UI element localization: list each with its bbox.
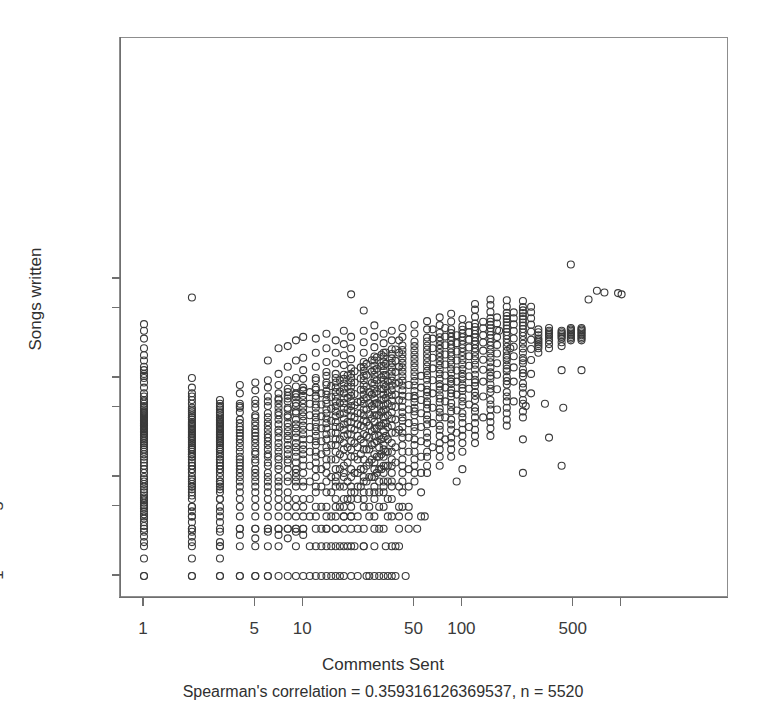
data-point <box>411 321 418 328</box>
data-point <box>236 390 243 397</box>
data-point <box>593 287 600 294</box>
data-point <box>344 478 351 485</box>
data-point <box>487 364 494 371</box>
data-point <box>366 513 373 520</box>
x-axis-title: Comments Sent <box>0 655 766 675</box>
data-point <box>510 335 517 342</box>
data-point <box>292 503 299 510</box>
data-point <box>328 489 335 496</box>
data-point <box>376 489 383 496</box>
data-point <box>405 483 412 490</box>
data-point <box>510 364 517 371</box>
data-point <box>510 353 517 360</box>
y-tick-label: 10 <box>0 468 2 485</box>
data-point <box>503 393 510 400</box>
data-point <box>399 478 406 485</box>
data-point <box>292 448 299 455</box>
data-point <box>519 380 526 387</box>
data-point <box>284 474 291 481</box>
y-axis-title: Songs written <box>20 0 50 597</box>
data-point <box>328 513 335 520</box>
data-point <box>328 543 335 550</box>
data-point <box>376 525 383 532</box>
data-point <box>284 513 291 520</box>
data-point <box>252 525 259 532</box>
data-point <box>510 328 517 335</box>
data-point <box>418 410 425 417</box>
data-point <box>494 371 501 378</box>
data-point <box>264 384 271 391</box>
data-point <box>264 474 271 481</box>
data-point <box>300 451 307 458</box>
data-point <box>348 333 355 340</box>
data-point <box>528 357 535 364</box>
data-point <box>275 503 282 510</box>
data-point <box>332 360 339 367</box>
data-point <box>264 543 271 550</box>
data-point <box>328 429 335 436</box>
data-point <box>459 440 466 447</box>
data-point <box>535 349 542 356</box>
data-point <box>300 354 307 361</box>
data-point <box>528 336 535 343</box>
data-point <box>275 448 282 455</box>
data-point <box>292 573 299 580</box>
x-tick-label: 500 <box>558 620 586 637</box>
data-point <box>284 377 291 384</box>
data-point <box>411 478 418 485</box>
data-point <box>405 525 412 532</box>
data-point <box>480 414 487 421</box>
data-point <box>300 375 307 382</box>
data-point <box>480 393 487 400</box>
data-point <box>264 377 271 384</box>
data-point <box>275 370 282 377</box>
data-point <box>332 337 339 344</box>
data-point <box>284 535 291 542</box>
data-point <box>292 357 299 364</box>
data-point <box>424 318 431 325</box>
data-point <box>472 313 479 320</box>
data-points-layer <box>120 38 727 596</box>
data-point <box>188 503 195 510</box>
data-point <box>494 334 501 341</box>
data-point <box>236 381 243 388</box>
data-point <box>528 346 535 353</box>
data-point <box>323 359 330 366</box>
data-point <box>558 462 565 469</box>
data-point <box>264 446 271 453</box>
data-point <box>216 508 223 515</box>
data-point <box>312 349 319 356</box>
data-point <box>453 429 460 436</box>
data-points-svg <box>120 38 727 596</box>
data-point <box>300 404 307 411</box>
data-point <box>411 351 418 358</box>
data-point <box>399 469 406 476</box>
data-point <box>300 573 307 580</box>
data-point <box>284 489 291 496</box>
scatter-plot-figure: 151050100500 151050100500 Songs written … <box>0 0 766 726</box>
data-point <box>348 503 355 510</box>
y-tick-label: 50 <box>0 398 2 415</box>
data-point <box>252 543 259 550</box>
data-point <box>300 503 307 510</box>
data-point <box>252 573 259 580</box>
data-point <box>236 503 243 510</box>
data-point <box>380 330 387 337</box>
data-point <box>340 327 347 334</box>
data-point <box>436 422 443 429</box>
data-point <box>480 332 487 339</box>
data-point <box>264 357 271 364</box>
data-point <box>436 462 443 469</box>
data-point <box>480 318 487 325</box>
data-point <box>459 466 466 473</box>
data-point <box>487 354 494 361</box>
data-point <box>264 495 271 502</box>
data-point <box>306 412 313 419</box>
data-point <box>388 337 395 344</box>
data-point <box>252 379 259 386</box>
data-point <box>252 387 259 394</box>
data-point <box>252 478 259 485</box>
data-point <box>252 513 259 520</box>
data-point <box>292 474 299 481</box>
data-point <box>494 406 501 413</box>
